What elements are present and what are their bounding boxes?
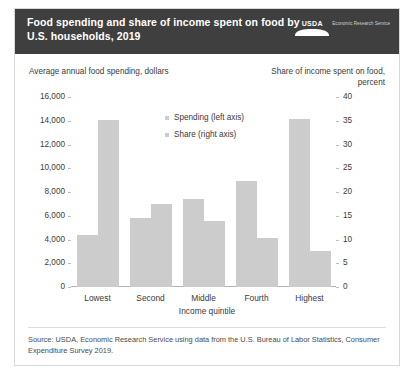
right-tick-label: 10: [343, 236, 352, 244]
left-tick-mark: [68, 287, 71, 288]
right-tick-label: 25: [343, 164, 352, 172]
usda-logo-icon: USDA Economic Research Service: [295, 20, 390, 36]
right-tick-mark: [336, 216, 339, 217]
right-tick-label: 15: [343, 212, 352, 220]
left-tick-label: 8,000: [45, 188, 66, 196]
share-bar: [98, 120, 119, 287]
category-label: Fourth: [244, 293, 268, 303]
usda-wordmark: USDA: [295, 20, 329, 28]
right-tick-label: 5: [343, 259, 348, 267]
footer-divider: [28, 327, 386, 328]
right-tick-mark: [336, 263, 339, 264]
left-tick-label: 12,000: [40, 141, 65, 149]
legend-swatch-icon: [165, 116, 169, 120]
right-tick-mark: [336, 121, 339, 122]
bar-group: Highest: [289, 97, 331, 287]
x-axis-label: Income quintile: [15, 306, 399, 316]
source-note: Source: USDA, Economic Research Service …: [28, 335, 388, 356]
bar-group: Lowest: [77, 97, 119, 287]
legend-item[interactable]: Share (right axis): [165, 130, 244, 139]
right-tick-label: 20: [343, 188, 352, 196]
left-tick-label: 2,000: [45, 259, 66, 267]
right-tick-label: 40: [343, 93, 352, 101]
category-label: Middle: [191, 293, 216, 303]
usda-swoosh-icon: [295, 29, 329, 36]
share-bar: [257, 238, 278, 287]
left-axis-title: Average annual food spending, dollars: [29, 67, 169, 78]
right-tick-mark: [336, 145, 339, 146]
spending-bar: [130, 218, 151, 287]
spending-bar: [236, 181, 257, 287]
page-title: Food spending and share of income spent …: [27, 15, 307, 43]
share-bar: [310, 251, 331, 287]
spending-bar: [77, 235, 98, 287]
legend-label: Spending (left axis): [174, 113, 244, 122]
left-tick-label: 10,000: [40, 164, 65, 172]
left-tick-label: 16,000: [40, 93, 65, 101]
share-bar: [204, 221, 225, 287]
chart-figure: Food spending and share of income spent …: [14, 8, 400, 366]
left-tick-label: 0: [60, 283, 65, 291]
category-label: Lowest: [84, 293, 111, 303]
chart-legend: Spending (left axis)Share (right axis): [165, 113, 244, 147]
legend-swatch-icon: [165, 133, 169, 137]
share-bar: [151, 204, 172, 287]
right-tick-mark: [336, 192, 339, 193]
right-axis-title: Share of income spent on food, percent: [245, 67, 385, 88]
spending-bar: [183, 199, 204, 287]
right-tick-mark: [336, 240, 339, 241]
usda-mark: USDA: [295, 20, 329, 36]
left-tick-label: 14,000: [40, 117, 65, 125]
right-tick-label: 35: [343, 117, 352, 125]
left-tick-label: 6,000: [45, 212, 66, 220]
right-tick-mark: [336, 168, 339, 169]
right-tick-mark: [336, 97, 339, 98]
right-tick-label: 0: [343, 283, 348, 291]
legend-item[interactable]: Spending (left axis): [165, 113, 244, 122]
chart-header: Food spending and share of income spent …: [15, 9, 399, 54]
category-label: Second: [136, 293, 164, 303]
usda-agency-label: Economic Research Service: [332, 20, 390, 26]
right-tick-mark: [336, 287, 339, 288]
right-tick-label: 30: [343, 141, 352, 149]
category-label: Highest: [295, 293, 323, 303]
spending-bar: [289, 119, 310, 287]
legend-label: Share (right axis): [174, 130, 236, 139]
left-tick-label: 4,000: [45, 236, 66, 244]
